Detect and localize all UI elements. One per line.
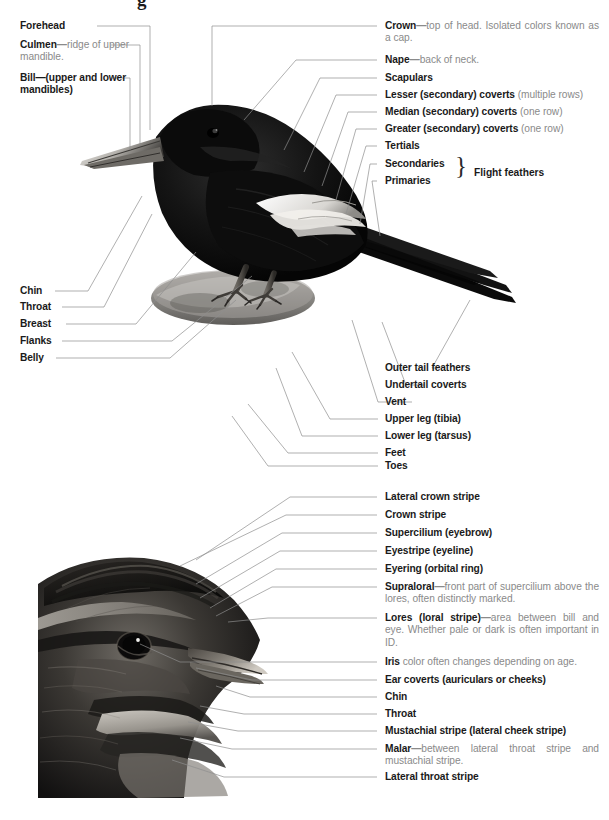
- label-crown[interactable]: Crown—top of head. Isolated colors known…: [385, 20, 599, 45]
- bird-tail: [352, 224, 516, 303]
- label-eyestripe[interactable]: Eyestripe (eyeline): [385, 545, 599, 557]
- label-lesser-coverts[interactable]: Lesser (secondary) coverts (multiple row…: [385, 89, 599, 101]
- label-iris-desc: color often changes depending on age.: [400, 656, 577, 667]
- label-tertials[interactable]: Tertials: [385, 140, 599, 152]
- em-dash: —: [434, 581, 444, 592]
- label-flight-feathers[interactable]: Flight feathers: [474, 167, 544, 178]
- label-eyering[interactable]: Eyering (orbital ring): [385, 563, 599, 575]
- label-scapulars[interactable]: Scapulars: [385, 72, 599, 84]
- em-dash: —: [57, 39, 67, 50]
- label-supraloral[interactable]: Supraloral—front part of supercilium abo…: [385, 581, 599, 606]
- label-culmen[interactable]: Culmen—ridge of upper mandible.: [20, 39, 150, 64]
- sparrow-head-profile-photo: [38, 548, 298, 798]
- label-crown-stripe[interactable]: Crown stripe: [385, 509, 599, 521]
- sparrow-eye: [117, 632, 152, 660]
- bird-body: [153, 105, 368, 282]
- label-lores[interactable]: Lores (loral stripe)—area between bill a…: [385, 612, 599, 649]
- label-malar[interactable]: Malar—between lateral throat stripe and …: [385, 743, 599, 768]
- label-forehead[interactable]: Forehead: [20, 20, 150, 32]
- label-feet[interactable]: Feet: [385, 447, 599, 459]
- label-nape[interactable]: Nape—back of neck.: [385, 54, 599, 66]
- bird-eye: [207, 128, 219, 138]
- label-ear-coverts[interactable]: Ear coverts (auriculars or cheeks): [385, 674, 599, 686]
- flight-feathers-brace: }: [455, 153, 467, 178]
- cropped-heading-glyph: g: [137, 0, 147, 11]
- label-median-coverts[interactable]: Median (secondary) coverts (one row): [385, 106, 599, 118]
- label-outer-tail-feathers[interactable]: Outer tail feathers: [385, 362, 599, 374]
- label-median-coverts-desc: (one row): [517, 106, 562, 117]
- label-undertail-coverts[interactable]: Undertail coverts: [385, 379, 599, 391]
- em-dash: —: [410, 54, 420, 65]
- label-nape-desc: back of neck.: [420, 54, 479, 65]
- label-breast[interactable]: Breast: [20, 318, 150, 330]
- label-bill[interactable]: Bill—(upper and lower mandibles): [20, 72, 150, 97]
- label-toes[interactable]: Toes: [385, 460, 599, 472]
- em-dash: —: [481, 612, 491, 623]
- label-mustachial-stripe[interactable]: Mustachial stripe (lateral cheek stripe): [385, 725, 599, 737]
- label-chin-head[interactable]: Chin: [385, 691, 599, 703]
- bird-topography-diagram-page: g: [0, 0, 609, 820]
- label-belly[interactable]: Belly: [20, 352, 150, 364]
- bird-bill: [80, 137, 164, 169]
- label-lesser-coverts-desc: (multiple rows): [515, 89, 583, 100]
- label-lateral-crown-stripe[interactable]: Lateral crown stripe: [385, 491, 599, 503]
- label-vent[interactable]: Vent: [385, 396, 599, 408]
- label-iris[interactable]: Iris color often changes depending on ag…: [385, 656, 599, 668]
- label-greater-coverts-desc: (one row): [518, 123, 563, 134]
- label-throat[interactable]: Throat: [20, 301, 150, 313]
- label-flanks[interactable]: Flanks: [20, 335, 150, 347]
- label-lower-leg[interactable]: Lower leg (tarsus): [385, 430, 599, 442]
- label-chin[interactable]: Chin: [20, 285, 150, 297]
- label-supercilium[interactable]: Supercilium (eyebrow): [385, 527, 599, 539]
- label-throat-head[interactable]: Throat: [385, 708, 599, 720]
- label-lateral-throat-stripe[interactable]: Lateral throat stripe: [385, 771, 599, 783]
- em-dash: —: [416, 20, 426, 31]
- label-upper-leg[interactable]: Upper leg (tibia): [385, 413, 599, 425]
- em-dash: —: [411, 743, 421, 754]
- label-greater-coverts[interactable]: Greater (secondary) coverts (one row): [385, 123, 599, 135]
